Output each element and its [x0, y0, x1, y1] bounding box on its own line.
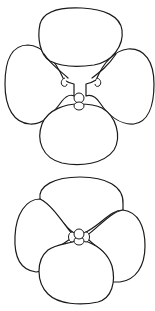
flower-bottom [15, 177, 145, 304]
top-left-beard [61, 78, 67, 86]
top-stigma-base [74, 102, 84, 110]
bottom-stigma [74, 229, 84, 239]
flower-diagram [0, 0, 155, 311]
flower-top [5, 8, 154, 165]
flower-diagram-canvas [0, 0, 155, 311]
top-lower-petal [40, 104, 118, 165]
top-upper-petal [39, 8, 122, 66]
